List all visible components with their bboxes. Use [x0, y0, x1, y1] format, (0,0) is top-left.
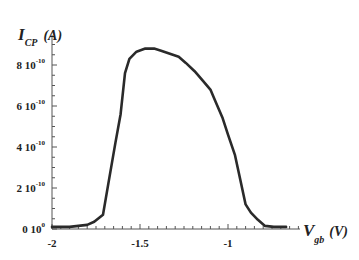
y-tick-label: 6 10-10 — [16, 98, 45, 112]
x-tick-label: -2 — [47, 237, 57, 249]
y-tick-label: 0 100 — [22, 221, 45, 235]
x-tick-labels: -2-1.5-1 — [47, 237, 232, 249]
y-tick-labels: 0 1002 10-104 10-106 10-108 10-10 — [16, 57, 45, 235]
y-axis — [52, 35, 57, 229]
y-tick-label: 2 10-10 — [16, 180, 45, 194]
x-axis-title: Vgb(V) — [303, 221, 348, 245]
y-tick-label: 4 10-10 — [16, 139, 45, 153]
chart: 0 1002 10-104 10-106 10-108 10-10 -2-1.5… — [0, 0, 359, 260]
icp-curve — [52, 49, 286, 227]
x-tick-label: -1.5 — [131, 237, 149, 249]
y-axis-title: ICP(A) — [17, 25, 62, 48]
x-tick-label: -1 — [223, 237, 232, 249]
y-tick-label: 8 10-10 — [16, 57, 45, 71]
